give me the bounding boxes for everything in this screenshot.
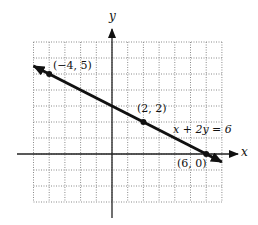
point-marker	[46, 71, 52, 77]
x-axis-label: x	[241, 146, 248, 158]
point-label-neg4-5: (−4, 5)	[53, 60, 92, 71]
equation-label: x + 2y = 6	[173, 124, 232, 135]
point-label-2-2: (2, 2)	[137, 103, 167, 114]
y-axis-label: y	[109, 10, 116, 22]
coordinate-plane	[0, 0, 258, 225]
point-marker	[140, 119, 146, 125]
point-label-6-0: (6, 0)	[177, 158, 207, 169]
